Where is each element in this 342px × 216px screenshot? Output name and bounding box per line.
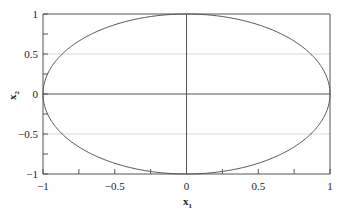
unit-circle-chart: −1−0.500.51 −1−0.500.51 x1 x2 — [0, 0, 342, 216]
y-tick-label: −1 — [26, 168, 38, 180]
x-tick-label: 0 — [184, 180, 190, 192]
x-tick-label: −0.5 — [105, 180, 125, 192]
x-tick-label: −1 — [37, 180, 49, 192]
y-ticks: −1−0.500.51 — [18, 8, 48, 180]
y-tick-label: −0.5 — [18, 128, 38, 140]
y-tick-label: 0.5 — [24, 48, 38, 60]
x-ticks: −1−0.500.51 — [37, 169, 333, 192]
y-axis-label: x2 — [6, 91, 21, 101]
reference-lines — [43, 14, 330, 174]
y-tick-label: 1 — [33, 8, 39, 20]
x-tick-label: 1 — [327, 180, 333, 192]
x-axis-label: x1 — [183, 195, 193, 210]
y-tick-label: 0 — [33, 88, 39, 100]
x-tick-label: 0.5 — [251, 180, 265, 192]
